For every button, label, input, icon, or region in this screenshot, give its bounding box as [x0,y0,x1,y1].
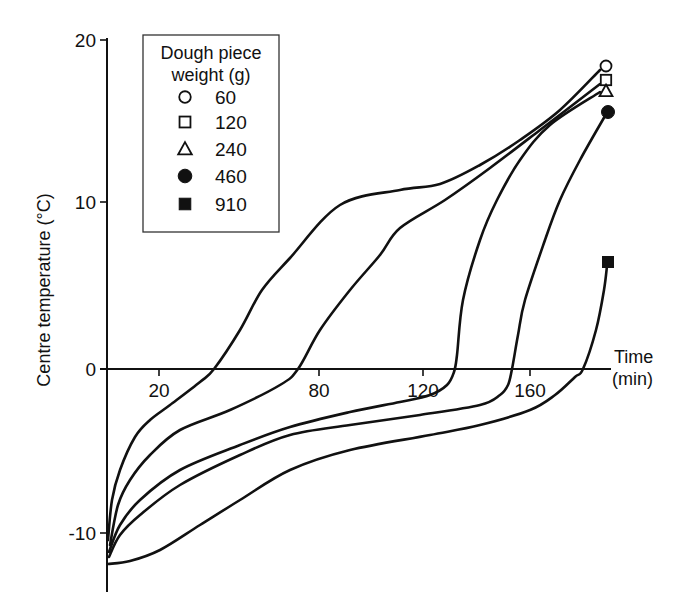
chart: 20100-10 2080120160 Centre temperature (… [0,0,689,616]
end-marker-460g [602,106,615,119]
end-marker-60g [601,61,612,72]
x-axis-title-line1: Time [614,347,653,367]
legend-title-line2: weight (g) [170,65,250,85]
y-tick-label: 20 [75,30,96,51]
legend: Dough piece weight (g) 60120240460910 [143,35,279,232]
end-marker-910g [603,257,614,268]
y-tick-label: 0 [85,359,96,380]
y-tick-label: 10 [75,192,96,213]
x-ticks: 2080120160 [148,369,545,401]
end-marker-240g [600,85,613,97]
legend-label: 240 [215,139,247,160]
y-tick-label: -10 [69,523,96,544]
y-axis-title: Centre temperature (°C) [34,193,54,386]
legend-title-line1: Dough piece [160,43,261,63]
open-circle-icon [179,91,191,103]
filled-square-icon [179,198,191,210]
legend-label: 460 [215,166,247,187]
legend-label: 120 [215,112,247,133]
x-tick-label: 20 [148,380,169,401]
x-tick-label: 160 [514,380,546,401]
legend-label: 910 [215,194,247,215]
x-tick-label: 80 [308,380,329,401]
x-axis-title-line2: (min) [612,369,653,389]
open-square-icon [180,117,191,128]
filled-circle-icon [178,169,192,183]
end-markers [600,61,615,268]
y-ticks: 20100-10 [69,30,107,544]
curve-910g [108,266,607,564]
legend-label: 60 [215,87,236,108]
